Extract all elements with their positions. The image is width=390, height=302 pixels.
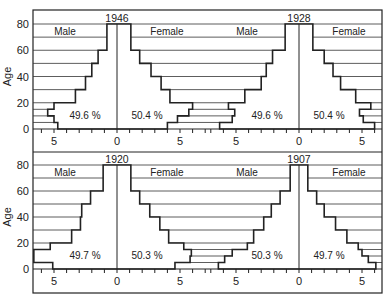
male-label: Male — [236, 167, 258, 178]
y-tick-label: 20 — [17, 237, 29, 249]
female-percentage: 50.4 % — [313, 110, 344, 121]
x-tick-label: 5 — [51, 275, 57, 287]
y-tick-label: 60 — [17, 185, 29, 197]
female-percentage: 50.3 % — [131, 250, 162, 261]
y-tick-label: 20 — [17, 97, 29, 109]
pyramid-1946: 5051946MaleFemale49.6 %50.4 % — [33, 12, 208, 147]
male-label: Male — [54, 167, 76, 178]
female-label: Female — [332, 167, 366, 178]
y-axis-label: Age — [1, 207, 13, 227]
year-label: 1946 — [105, 12, 129, 24]
male-percentage: 50.3 % — [251, 250, 282, 261]
male-percentage: 49.6 % — [251, 110, 282, 121]
female-label: Female — [150, 167, 184, 178]
male-label: Male — [54, 26, 76, 37]
population-pyramids-chart: 5051946MaleFemale49.6 %50.4 %5051928Male… — [0, 0, 390, 302]
x-tick-label: 0 — [114, 135, 120, 147]
y-tick-label: 0 — [23, 123, 29, 135]
pyramid-1907: 5051907MaleFemale50.3 %49.7 % — [208, 153, 382, 287]
x-tick-label: 5 — [177, 135, 183, 147]
y-axis-label: Age — [1, 67, 13, 87]
female-percentage: 50.4 % — [131, 110, 162, 121]
y-tick-label: 40 — [17, 211, 29, 223]
x-tick-label: 5 — [177, 275, 183, 287]
male-percentage: 49.7 % — [69, 250, 100, 261]
y-tick-label: 0 — [23, 263, 29, 275]
male-percentage: 49.6 % — [69, 110, 100, 121]
female-label: Female — [150, 26, 184, 37]
x-tick-label: 5 — [359, 135, 365, 147]
x-tick-label: 5 — [233, 275, 239, 287]
x-tick-label: 0 — [114, 275, 120, 287]
female-percentage: 49.7 % — [313, 250, 344, 261]
pyramid-1920: 5051920MaleFemale49.7 %50.3 % — [33, 153, 208, 287]
y-tick-label: 40 — [17, 71, 29, 83]
pyramid-1928: 5051928MaleFemale49.6 %50.4 % — [208, 12, 382, 147]
x-tick-label: 5 — [51, 135, 57, 147]
year-label: 1907 — [287, 153, 311, 165]
female-label: Female — [332, 26, 366, 37]
x-tick-label: 5 — [359, 275, 365, 287]
year-label: 1928 — [287, 12, 311, 24]
male-label: Male — [236, 26, 258, 37]
x-tick-label: 0 — [296, 135, 302, 147]
y-tick-label: 60 — [17, 44, 29, 56]
y-tick-label: 80 — [17, 159, 29, 171]
x-tick-label: 5 — [233, 135, 239, 147]
x-tick-label: 0 — [296, 275, 302, 287]
y-tick-label: 80 — [17, 18, 29, 30]
year-label: 1920 — [105, 153, 129, 165]
